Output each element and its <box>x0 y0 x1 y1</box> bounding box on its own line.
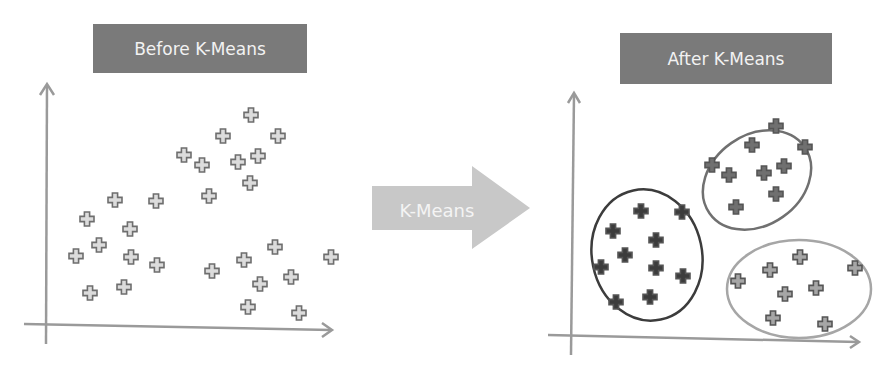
before-axes <box>24 84 332 344</box>
diagram-canvas <box>0 0 889 377</box>
data-point-icon <box>745 138 759 152</box>
data-point-icon <box>92 238 106 252</box>
data-point-icon <box>241 300 255 314</box>
data-point-icon <box>763 263 777 277</box>
data-point-icon <box>80 212 94 226</box>
data-point-icon <box>123 222 137 236</box>
data-point-icon <box>216 129 230 143</box>
data-point-icon <box>606 224 620 238</box>
data-point-icon <box>618 248 632 262</box>
cluster-boundary <box>684 110 831 250</box>
data-point-icon <box>117 280 131 294</box>
data-point-icon <box>205 264 219 278</box>
cluster-top <box>684 110 831 250</box>
after-axes <box>548 93 859 355</box>
data-point-icon <box>251 149 265 163</box>
data-point-icon <box>324 250 338 264</box>
data-point-icon <box>722 168 736 182</box>
data-point-icon <box>150 258 164 272</box>
data-point-icon <box>777 159 791 173</box>
data-point-icon <box>793 250 807 264</box>
cluster-boundary <box>579 179 714 331</box>
data-point-icon <box>634 204 648 218</box>
data-point-icon <box>124 250 138 264</box>
data-point-icon <box>766 311 780 325</box>
cluster-left <box>579 179 714 331</box>
data-point-icon <box>292 306 306 320</box>
data-point-icon <box>231 155 245 169</box>
data-point-icon <box>237 253 251 267</box>
data-point-icon <box>243 176 257 190</box>
data-point-icon <box>757 166 771 180</box>
data-point-icon <box>676 269 690 283</box>
cluster-right <box>727 240 871 338</box>
data-point-icon <box>778 287 792 301</box>
data-point-icon <box>649 261 663 275</box>
data-point-icon <box>195 158 209 172</box>
data-point-icon <box>609 295 623 309</box>
data-point-icon <box>731 274 745 288</box>
data-point-icon <box>643 290 657 304</box>
before-points <box>69 108 338 320</box>
data-point-icon <box>809 281 823 295</box>
data-point-icon <box>108 193 122 207</box>
data-point-icon <box>177 148 191 162</box>
kmeans-arrow-label: K-Means <box>372 190 502 230</box>
after-clusters <box>579 110 871 338</box>
data-point-icon <box>244 108 258 122</box>
data-point-icon <box>649 233 663 247</box>
data-point-icon <box>284 270 298 284</box>
data-point-icon <box>268 240 282 254</box>
data-point-icon <box>769 187 783 201</box>
data-point-icon <box>83 286 97 300</box>
data-point-icon <box>594 260 608 274</box>
data-point-icon <box>202 189 216 203</box>
data-point-icon <box>675 205 689 219</box>
data-point-icon <box>253 277 267 291</box>
data-point-icon <box>69 249 83 263</box>
data-point-icon <box>149 194 163 208</box>
data-point-icon <box>818 317 832 331</box>
data-point-icon <box>271 129 285 143</box>
data-point-icon <box>729 200 743 214</box>
